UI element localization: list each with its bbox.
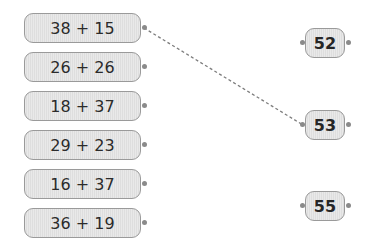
connector-handle[interactable]	[142, 64, 147, 69]
expression-label: 36 + 19	[50, 214, 114, 233]
expression-box[interactable]: 16 + 37	[24, 169, 141, 199]
answer-label: 53	[314, 116, 336, 135]
expression-label: 29 + 23	[50, 136, 114, 155]
expression-label: 16 + 37	[50, 175, 114, 194]
answer-label: 52	[314, 34, 336, 53]
expression-box[interactable]: 38 + 15	[24, 13, 141, 43]
connector-handle-right[interactable]	[346, 203, 351, 208]
answer-box[interactable]: 53	[305, 110, 345, 140]
connector-handle[interactable]	[142, 142, 147, 147]
expression-box[interactable]: 18 + 37	[24, 91, 141, 121]
expression-label: 26 + 26	[50, 58, 114, 77]
expression-label: 18 + 37	[50, 97, 114, 116]
connector-handle[interactable]	[142, 220, 147, 225]
expression-box[interactable]: 36 + 19	[24, 208, 141, 238]
expression-box[interactable]: 26 + 26	[24, 52, 141, 82]
expression-box[interactable]: 29 + 23	[24, 130, 141, 160]
connector-handle-right[interactable]	[346, 122, 351, 127]
connector-handle[interactable]	[142, 103, 147, 108]
answer-box[interactable]: 52	[305, 28, 345, 58]
expression-label: 38 + 15	[50, 19, 114, 38]
answer-box[interactable]: 55	[305, 191, 345, 221]
connection-line-38-15-to-53	[144, 28, 303, 125]
connector-handle-right[interactable]	[346, 40, 351, 45]
answer-label: 55	[314, 197, 336, 216]
connector-handle[interactable]	[142, 181, 147, 186]
connector-handle[interactable]	[142, 25, 147, 30]
